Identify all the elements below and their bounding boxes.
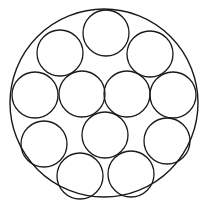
inner-circle-middle-center-right (104, 71, 150, 117)
inner-circle-middle-far-right (150, 72, 196, 118)
inner-circle-upper-left (37, 30, 83, 76)
inner-circle-lower-right (144, 118, 190, 164)
inner-circle-middle-far-left (12, 72, 58, 118)
outer-enclosing-circle (10, 9, 198, 197)
inner-circle-lower-center (82, 112, 128, 158)
inner-circle-lower-left (21, 121, 67, 167)
inner-circle-middle-center-left (59, 71, 105, 117)
inner-circle-upper-right (127, 31, 173, 77)
inner-circle-bottom-left (57, 153, 103, 199)
inner-circle-bottom-right (108, 151, 154, 197)
inner-circle-top (83, 10, 129, 56)
circle-packing-diagram (0, 0, 210, 214)
